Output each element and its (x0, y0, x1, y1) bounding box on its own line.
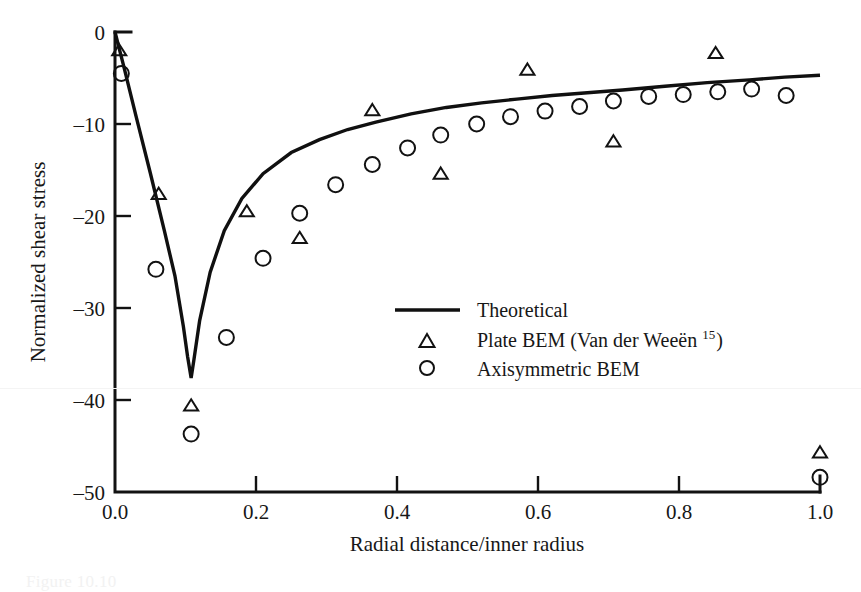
data-point-circle (503, 109, 518, 124)
y-tick-label-minus30: –30 (73, 297, 106, 321)
data-point-triangle (184, 399, 198, 410)
data-point-triangle (293, 232, 307, 243)
data-point-triangle (606, 135, 620, 146)
x-tick-label-0p2: 0.2 (243, 500, 269, 524)
y-tick-label-0: 0 (95, 21, 106, 45)
legend-label-plate-bem: Plate BEM (Van der Weeën15) (477, 327, 723, 352)
data-point-triangle (365, 104, 379, 115)
legend-label-plate-bem-superscript: 15 (702, 327, 715, 342)
legend-label-axisymmetric-bem: Axisymmetric BEM (477, 358, 640, 381)
x-tick-marks (256, 476, 679, 492)
legend-label-plate-bem-tail: ) (716, 329, 723, 352)
x-tick-label-1p0: 1.0 (807, 500, 833, 524)
data-point-circle (328, 177, 343, 192)
axis-spines (115, 32, 820, 492)
data-point-triangle (434, 167, 448, 178)
legend-swatch-triangle-icon (420, 334, 435, 347)
y-tick-label-minus10: –10 (73, 113, 106, 137)
data-point-circle (148, 262, 163, 277)
y-tick-label-minus20: –20 (73, 205, 106, 229)
x-tick-labels: 0.0 0.2 0.4 0.6 0.8 1.0 (102, 500, 833, 524)
y-tick-marks (115, 124, 131, 400)
data-point-circle (400, 140, 415, 155)
data-point-circle (641, 89, 656, 104)
x-tick-label-0p0: 0.0 (102, 500, 128, 524)
x-tick-label-0p8: 0.8 (666, 500, 692, 524)
y-tick-labels: 0 –10 –20 –30 –40 –50 (73, 21, 106, 505)
data-point-circle (469, 117, 484, 132)
data-point-circle (538, 104, 553, 119)
data-point-circle (292, 206, 307, 221)
x-tick-label-0p4: 0.4 (384, 500, 411, 524)
data-point-circle (710, 84, 725, 99)
legend-label-theoretical: Theoretical (477, 299, 568, 321)
legend-label-plate-bem-text: Plate BEM (Van der Weeën (477, 329, 697, 352)
data-point-circle (779, 88, 794, 103)
data-point-circle (256, 251, 271, 266)
x-tick-label-0p6: 0.6 (525, 500, 551, 524)
data-point-circle (184, 427, 199, 442)
data-point-circle (676, 87, 691, 102)
data-point-circle (433, 128, 448, 143)
series-axisymmetric-bem-markers (114, 66, 828, 485)
data-point-circle (572, 99, 587, 114)
data-point-circle (219, 330, 234, 345)
y-tick-label-minus40: –40 (73, 389, 106, 413)
data-point-triangle (813, 446, 827, 457)
data-point-triangle (520, 63, 534, 74)
axis-frame (115, 32, 820, 492)
data-point-circle (365, 157, 380, 172)
figure-caption-partial: Figure 10.10 (26, 572, 116, 592)
legend: Theoretical Plate BEM (Van der Weeën15) … (395, 299, 723, 381)
data-point-circle (606, 94, 621, 109)
scan-artifact-line (0, 388, 861, 389)
x-axis-title: Radial distance/inner radius (350, 532, 584, 556)
y-tick-label-minus50: –50 (73, 481, 106, 505)
data-point-triangle (240, 205, 254, 216)
data-point-circle (744, 82, 759, 97)
y-axis-title: Normalized shear stress (26, 162, 50, 363)
data-point-triangle (709, 47, 723, 58)
legend-swatch-circle-icon (420, 361, 434, 375)
series-plate-bem-markers (112, 44, 827, 457)
